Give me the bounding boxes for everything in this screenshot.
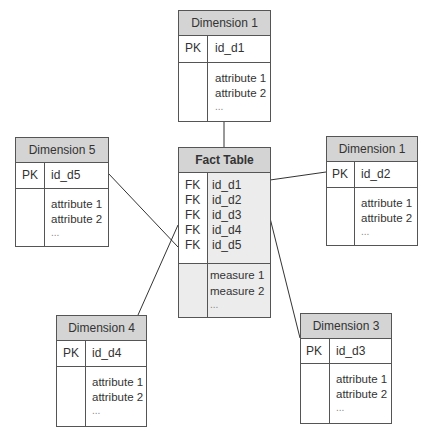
fk-label: FK	[185, 178, 200, 193]
attribute: attribute 1	[51, 197, 102, 212]
key-label: PK	[332, 167, 348, 181]
table-header: Dimension 1	[179, 11, 270, 36]
fk-label: FK	[185, 193, 200, 208]
dimension-table-left: Dimension 5 PK id_d5 attribute 1 attribu…	[15, 137, 109, 247]
measure: measure 1	[210, 267, 264, 283]
attribute: attribute 1	[336, 372, 387, 387]
ellipsis: ...	[92, 405, 143, 417]
dimension-table-bottom-right: Dimension 3 PK id_d3 attribute 1 attribu…	[300, 313, 392, 424]
connector-dim1-right-fact	[270, 172, 326, 180]
table-header: Fact Table	[179, 148, 270, 173]
id-field: id_d4	[92, 346, 121, 360]
table-title: Dimension 1	[339, 142, 406, 156]
table-header: Dimension 3	[301, 314, 391, 339]
key-label: PK	[306, 344, 322, 358]
fk-field: id_d3	[212, 208, 241, 223]
fk-field: id_d1	[212, 178, 241, 193]
key-label: PK	[22, 168, 38, 182]
id-field: id_d2	[361, 167, 390, 181]
dimension-table-right: Dimension 1 PK id_d2 attribute 1 attribu…	[326, 136, 418, 246]
table-title: Dimension 5	[29, 143, 96, 157]
ellipsis: ...	[336, 402, 387, 414]
attribute: attribute 2	[336, 387, 387, 402]
ellipsis: ...	[215, 101, 266, 113]
ellipsis: ...	[210, 299, 264, 311]
attribute: attribute 2	[215, 86, 266, 101]
key-label: PK	[185, 41, 201, 55]
id-field: id_d1	[215, 41, 244, 55]
fk-field: id_d4	[212, 223, 241, 238]
fk-label: FK	[185, 238, 200, 253]
attribute: attribute 2	[92, 390, 143, 405]
fk-field: id_d2	[212, 193, 241, 208]
attribute: attribute 1	[92, 375, 143, 390]
table-header: Dimension 4	[57, 316, 146, 341]
fk-field: id_d5	[212, 238, 241, 253]
attribute: attribute 1	[361, 196, 412, 211]
measure: measure 2	[210, 283, 264, 299]
connector-dim5-fact	[108, 173, 178, 247]
table-header: Dimension 5	[16, 138, 108, 163]
table-title: Dimension 1	[191, 16, 258, 30]
table-title: Fact Table	[195, 153, 253, 167]
fact-table: Fact Table FK FK FK FK FK id_d1 id_d2 id…	[178, 147, 271, 318]
dimension-table-bottom-left: Dimension 4 PK id_d4 attribute 1 attribu…	[56, 315, 147, 427]
connector-dim3-fact	[270, 218, 300, 338]
table-title: Dimension 3	[313, 319, 380, 333]
ellipsis: ...	[361, 226, 412, 238]
attribute: attribute 2	[361, 211, 412, 226]
connector-dim4-fact	[138, 225, 178, 315]
attribute: attribute 2	[51, 212, 102, 227]
attribute: attribute 1	[215, 71, 266, 86]
ellipsis: ...	[51, 227, 102, 239]
fk-label: FK	[185, 223, 200, 238]
table-title: Dimension 4	[68, 321, 135, 335]
table-header: Dimension 1	[327, 137, 417, 162]
id-field: id_d5	[51, 168, 80, 182]
dimension-table-top: Dimension 1 PK id_d1 attribute 1 attribu…	[178, 10, 271, 122]
fk-label: FK	[185, 208, 200, 223]
key-label: PK	[63, 346, 79, 360]
id-field: id_d3	[336, 344, 365, 358]
